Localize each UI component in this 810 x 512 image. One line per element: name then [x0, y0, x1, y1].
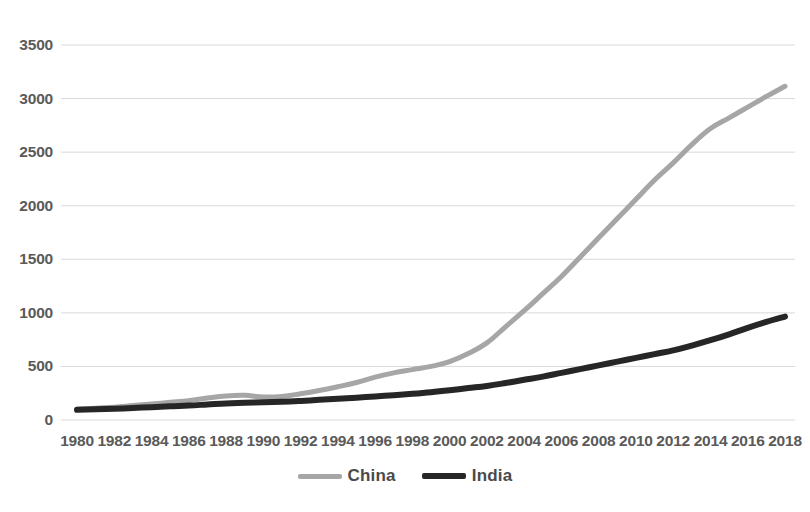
legend-swatch-india-icon [422, 473, 466, 479]
y-axis-tick-label: 3500 [0, 36, 53, 54]
x-axis-tick-label: 2012 [656, 432, 690, 450]
y-axis-tick-label: 1500 [0, 250, 53, 268]
x-axis-tick-label: 2016 [731, 432, 765, 450]
x-axis-tick-label: 2018 [768, 432, 802, 450]
x-axis-tick-label: 2008 [582, 432, 616, 450]
legend-swatch-china-icon [298, 474, 342, 479]
x-axis-tick-label: 1982 [97, 432, 131, 450]
x-axis-tick-label: 2006 [545, 432, 579, 450]
y-axis-tick-label: 2500 [0, 143, 53, 161]
x-axis-tick-label: 2004 [507, 432, 541, 450]
y-axis-tick-label: 0 [0, 411, 53, 429]
chart-legend: ChinaIndia [0, 466, 810, 486]
x-axis-tick-label: 1984 [135, 432, 169, 450]
x-axis-tick-label: 2002 [470, 432, 504, 450]
x-axis-tick-label: 1998 [396, 432, 430, 450]
y-axis-tick-label: 2000 [0, 197, 53, 215]
y-axis-tick-label: 1000 [0, 304, 53, 322]
x-axis-tick-label: 1996 [358, 432, 392, 450]
x-axis-tick-label: 1986 [172, 432, 206, 450]
y-axis-tick-label: 3000 [0, 90, 53, 108]
legend-item-china[interactable]: China [298, 466, 396, 486]
x-axis-tick-label: 1994 [321, 432, 355, 450]
series-line-india [77, 317, 785, 410]
gridlines [61, 45, 795, 420]
x-axis-tick-label: 2000 [433, 432, 467, 450]
x-axis-tick-label: 1992 [284, 432, 318, 450]
x-axis-tick-label: 2010 [619, 432, 653, 450]
x-axis-tick-label: 1980 [60, 432, 94, 450]
y-axis-tick-label: 500 [0, 357, 53, 375]
x-axis-tick-label: 1990 [246, 432, 280, 450]
line-chart: 0500100015002000250030003500 19801982198… [0, 0, 810, 512]
x-axis-tick-label: 1988 [209, 432, 243, 450]
series-lines [77, 86, 785, 410]
legend-label: India [472, 466, 513, 486]
legend-label: China [348, 466, 396, 486]
series-line-china [77, 86, 785, 409]
x-axis-tick-label: 2014 [694, 432, 728, 450]
legend-item-india[interactable]: India [422, 466, 513, 486]
